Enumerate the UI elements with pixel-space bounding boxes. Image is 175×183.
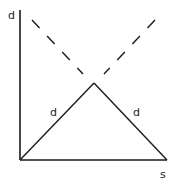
right-edge-label: d [133,106,140,119]
left-solid-edge [20,83,94,160]
left-dashed-line [32,20,83,74]
y-axis-label: d [8,9,15,22]
diagram: d s d d [0,0,175,183]
left-edge-label: d [50,106,57,119]
right-solid-edge [94,83,167,160]
right-dashed-line [104,20,155,74]
x-axis-label: s [160,168,166,181]
